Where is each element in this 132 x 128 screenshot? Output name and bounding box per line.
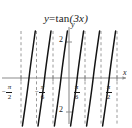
x-tick-sign: − [35, 89, 39, 96]
fraction-pi-2: π 2 [106, 84, 112, 101]
fraction-denominator: 6 [75, 94, 79, 101]
fraction-pi-6: π 6 [74, 84, 80, 101]
x-tick-sign: − [2, 89, 6, 96]
fraction-denominator: 2 [8, 94, 12, 101]
x-axis-label: x [123, 68, 127, 77]
fraction-numerator: π [7, 84, 13, 91]
x-tick-label-pi-6: π 6 [73, 84, 80, 101]
fraction-denominator: 2 [107, 94, 111, 101]
figure-tangent-graph: y=tan(3x) [0, 0, 132, 128]
y-tick-label-neg-2: 2 [59, 105, 63, 114]
fraction-denominator: 6 [41, 94, 45, 101]
x-tick-label-pi-2: π 2 [105, 84, 112, 101]
x-tick-label-neg-pi-6: − π 6 [35, 84, 45, 101]
x-tick-label-neg-pi-2: − π 2 [2, 84, 12, 101]
fraction-numerator: π [40, 84, 46, 91]
plot-canvas [0, 0, 132, 128]
y-tick-label-2: 2 [59, 35, 63, 44]
fraction-neg-pi-6: π 6 [39, 84, 45, 101]
fraction-numerator: π [106, 84, 112, 91]
fraction-neg-pi-2: π 2 [6, 84, 12, 101]
fraction-numerator: π [74, 84, 80, 91]
y-axis-label: y [71, 20, 75, 29]
